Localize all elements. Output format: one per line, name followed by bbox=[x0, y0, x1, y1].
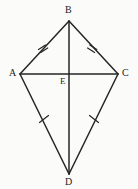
vertex-label-e: E bbox=[60, 76, 66, 86]
segment-ad bbox=[20, 74, 69, 174]
vertex-label-a: A bbox=[9, 68, 16, 78]
tick-mark bbox=[90, 45, 97, 50]
segment-dc bbox=[69, 74, 118, 174]
tick-mark bbox=[88, 48, 95, 53]
tick-marks-bc bbox=[88, 45, 97, 53]
diagram-canvas: B A C D E bbox=[0, 0, 138, 189]
segment-ab bbox=[20, 21, 69, 74]
kite-diagonals bbox=[20, 21, 118, 174]
vertex-label-b: B bbox=[65, 5, 72, 15]
vertex-label-c: C bbox=[122, 68, 129, 78]
vertex-label-d: D bbox=[65, 177, 72, 187]
kite-figure bbox=[0, 0, 138, 189]
